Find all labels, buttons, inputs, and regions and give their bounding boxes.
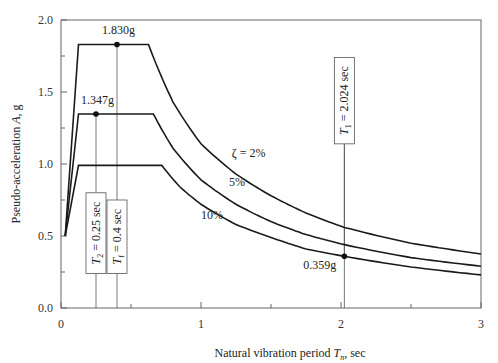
spectrum-curve-1: [65, 114, 481, 266]
x-tick-label: 0: [58, 317, 64, 331]
axis-ticks: 01230.00.51.01.52.0: [38, 13, 484, 331]
data-point-label: 1.830g: [102, 23, 135, 37]
series-label: 5%: [229, 175, 245, 189]
x-tick-label: 3: [478, 317, 484, 331]
y-tick-label: 1.5: [38, 85, 53, 99]
x-tick-label: 1: [198, 317, 204, 331]
x-tick-label: 2: [338, 317, 344, 331]
data-point-label: 0.359g: [303, 258, 336, 272]
y-tick-label: 2.0: [38, 13, 53, 27]
y-tick-label: 0.5: [38, 229, 53, 243]
response-spectrum-chart: 01230.00.51.01.52.0 T2 = 0.25 secTf = 0.…: [0, 0, 498, 363]
period-label: T1 = 2.024 sec: [337, 66, 353, 135]
series-label: 10%: [201, 208, 223, 222]
series-label: ζ = 2%: [232, 146, 266, 160]
y-tick-label: 1.0: [38, 157, 53, 171]
data-point-marker: [93, 111, 99, 117]
x-axis-label: Natural vibration period Tn, sec: [215, 346, 366, 362]
y-axis-label: Pseudo-acceleration A, g: [9, 105, 23, 224]
data-point-marker: [114, 42, 120, 48]
data-point-label: 1.347g: [81, 93, 114, 107]
data-point-marker: [342, 254, 348, 260]
y-tick-label: 0.0: [38, 301, 53, 315]
series-labels: ζ = 2%5%10%: [201, 146, 266, 222]
spectrum-curves: [65, 45, 481, 275]
